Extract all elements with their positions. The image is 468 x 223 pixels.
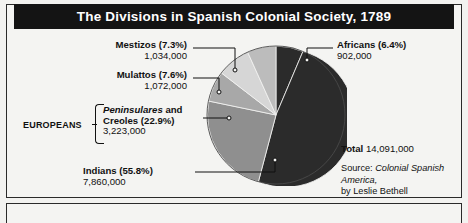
callout-mulattos: Mulattos (7.6%) 1,072,000: [83, 70, 187, 91]
title-bar: The Divisions in Spanish Colonial Societ…: [14, 4, 454, 29]
callout-creoles-number: 3,223,000: [103, 126, 199, 137]
group-label-europeans: EUROPEANS: [23, 120, 82, 130]
total-label: Total: [341, 143, 363, 154]
pie-svg: [205, 44, 347, 186]
pie-chart: [205, 44, 347, 186]
callout-africans-number: 902,000: [337, 51, 461, 62]
callout-africans: Africans (6.4%) 902,000: [337, 40, 461, 61]
page-title: The Divisions in Spanish Colonial Societ…: [77, 9, 391, 24]
total-line: Total 14,091,000: [341, 143, 414, 154]
chart-body: Mestizos (7.3%) 1,034,000 Mulattos (7.6%…: [7, 30, 461, 197]
callout-indians-number: 7,860,000: [83, 177, 191, 188]
callout-creoles-italic: Peninsulares: [103, 104, 163, 115]
source-prefix: Source:: [341, 163, 375, 173]
source-author: by Leslie Bethell: [341, 186, 408, 196]
callout-indians: Indians (55.8%) 7,860,000: [83, 166, 191, 187]
callout-creoles-and: and: [163, 104, 183, 115]
callout-mestizos-number: 1,034,000: [83, 51, 187, 62]
infographic-root: The Divisions in Spanish Colonial Societ…: [0, 0, 468, 223]
callout-mestizos: Mestizos (7.3%) 1,034,000: [83, 40, 187, 61]
callout-creoles: Peninsulares and Creoles (22.9%) 3,223,0…: [103, 105, 199, 137]
next-panel-edge: [6, 203, 462, 223]
source-note: Source: Colonial Spanish America, by Les…: [341, 163, 463, 198]
total-value: 14,091,000: [366, 143, 414, 154]
callout-mulattos-number: 1,072,000: [83, 81, 187, 92]
